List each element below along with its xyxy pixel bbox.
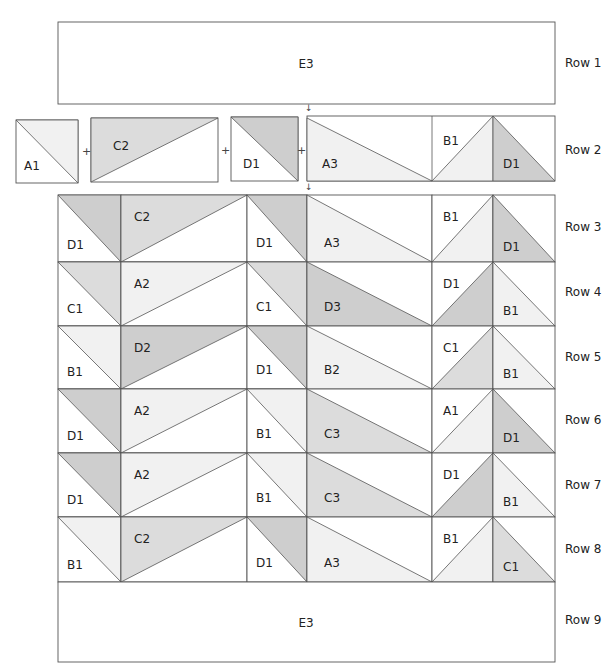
grid-row-3: D1C2D1A3B1D1 (58, 195, 555, 262)
row-label-1: Row 1 (565, 56, 601, 70)
quilt-diagram: E3A1C2D1A3B1D1D1C2D1A3B1D1C1A2C1D3D1B1B1… (0, 0, 614, 671)
row-1-border: E3 (58, 22, 555, 104)
piece-label: B1 (67, 365, 83, 379)
row-2-units: A1C2D1A3B1D1 (16, 116, 555, 183)
piece-label: D1 (256, 236, 273, 250)
piece-label: C1 (503, 560, 519, 574)
piece-label: C3 (324, 491, 340, 505)
piece-label: B1 (256, 491, 272, 505)
piece-label: D1 (67, 429, 84, 443)
piece-label: B1 (443, 210, 459, 224)
piece-label: B1 (256, 427, 272, 441)
piece-label: C1 (256, 300, 272, 314)
plus-sign: + (82, 145, 91, 158)
piece-label: D1 (443, 277, 460, 291)
piece-label: C2 (113, 139, 129, 153)
row-label-7: Row 7 (565, 478, 601, 492)
piece-label: D3 (324, 300, 341, 314)
piece-label: B1 (67, 558, 83, 572)
grid-row-5: B1D2D1B2C1B1 (58, 326, 555, 389)
piece-label: D1 (256, 556, 273, 570)
piece-label: B1 (503, 495, 519, 509)
down-arrow-icon: ↓ (305, 182, 313, 192)
row-label-4: Row 4 (565, 285, 601, 299)
piece-label: D1 (503, 157, 520, 171)
row-9-border: E3 (58, 582, 555, 662)
piece-label: B1 (503, 367, 519, 381)
piece-label: D2 (134, 341, 151, 355)
grid-row-4: C1A2C1D3D1B1 (58, 262, 555, 326)
piece-label: A2 (134, 277, 150, 291)
grid-row-6: D1A2B1C3A1D1 (58, 389, 555, 453)
piece-label: D1 (67, 238, 84, 252)
piece-label: C1 (443, 341, 459, 355)
piece-label: A3 (324, 236, 340, 250)
piece-label: A1 (443, 404, 459, 418)
piece-label: E3 (298, 616, 313, 630)
row-label-2: Row 2 (565, 143, 601, 157)
piece-label: E3 (298, 57, 313, 71)
grid-row-8: B1C2D1A3B1C1 (58, 517, 555, 582)
piece-label: A3 (322, 157, 338, 171)
piece-label: B1 (443, 532, 459, 546)
plus-sign: + (221, 144, 230, 157)
piece-label: D1 (67, 493, 84, 507)
row-label-6: Row 6 (565, 413, 601, 427)
piece-label: C2 (134, 210, 150, 224)
plus-sign: + (297, 144, 306, 157)
piece-label: C1 (67, 302, 83, 316)
piece-label: A2 (134, 404, 150, 418)
piece-label: D1 (256, 363, 273, 377)
piece-label: B1 (503, 304, 519, 318)
piece-label: D1 (503, 431, 520, 445)
piece-label: B2 (324, 363, 340, 377)
piece-label: A2 (134, 468, 150, 482)
grid-row-7: D1A2B1C3D1B1 (58, 453, 555, 517)
piece-label: A1 (24, 159, 40, 173)
row-label-3: Row 3 (565, 220, 601, 234)
piece-label: C3 (324, 427, 340, 441)
piece-label: C2 (134, 532, 150, 546)
piece-label: D1 (443, 468, 460, 482)
row-label-9: Row 9 (565, 613, 601, 627)
piece-label: B1 (443, 134, 459, 148)
down-arrow-icon: ↓ (305, 103, 313, 113)
piece-label: D1 (503, 240, 520, 254)
row-label-5: Row 5 (565, 350, 601, 364)
row-label-8: Row 8 (565, 542, 601, 556)
piece-label: D1 (243, 157, 260, 171)
piece-label: A3 (324, 556, 340, 570)
